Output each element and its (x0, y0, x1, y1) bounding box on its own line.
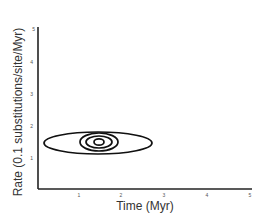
svg-text:1: 1 (78, 192, 81, 198)
contour-level-3 (86, 136, 112, 148)
svg-text:5: 5 (32, 26, 35, 32)
y-axis-label: Rate (0.1 substitutions/site/Myr) (11, 28, 25, 197)
svg-text:5: 5 (249, 192, 252, 198)
contour-lines (44, 132, 152, 154)
x-tick-labels: 1 2 3 4 5 (78, 192, 252, 198)
svg-text:1: 1 (30, 155, 33, 161)
x-axis-label: Time (Myr) (116, 199, 174, 213)
contour-chart: 1 2 3 4 5 1 2 3 4 5 Time (Myr) Rate (0.1… (0, 0, 271, 224)
svg-text:3: 3 (163, 192, 166, 198)
svg-text:3: 3 (30, 91, 33, 97)
contour-level-4 (94, 139, 104, 145)
svg-text:2: 2 (120, 192, 123, 198)
svg-text:4: 4 (30, 59, 33, 65)
svg-text:4: 4 (206, 192, 209, 198)
svg-text:2: 2 (30, 123, 33, 129)
y-tick-labels: 1 2 3 4 5 (30, 26, 35, 161)
